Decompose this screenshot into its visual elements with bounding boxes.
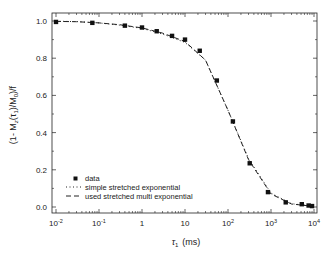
legend-item-simple-stretched: simple stretched exponential [66, 183, 180, 192]
x-tick-label: 104 [308, 218, 320, 228]
data-point [123, 23, 127, 27]
x-tick-label: 10-2 [49, 218, 63, 228]
data-point [90, 21, 94, 25]
y-tick-label: 0.2 [36, 166, 48, 175]
x-tick-label: 102 [222, 218, 234, 228]
legend: data simple stretched exponential used s… [66, 174, 193, 201]
legend-item-multi-exponential: used stretched multi exponential [66, 192, 193, 201]
data-point [155, 29, 159, 33]
y-tick-label: 0.8 [36, 54, 48, 63]
x-tick-label: 103 [265, 218, 277, 228]
y-axis-label: (1- Mz(τ1)/M0)/f [8, 85, 19, 144]
data-point [266, 190, 270, 194]
y-tick-label: 1.0 [36, 17, 48, 26]
data-point [183, 37, 187, 41]
y-tick-label: 0.4 [36, 129, 48, 138]
svg-text:simple stretched exponential: simple stretched exponential [85, 183, 180, 192]
chart: 10-210-1110102103104 0.00.20.40.60.81.0 … [0, 0, 330, 255]
x-axis-label: τ1(ms) [172, 237, 201, 248]
y-tick-label: 0.6 [36, 91, 48, 100]
data-point [198, 49, 202, 53]
data-point [231, 119, 235, 123]
data-point [54, 20, 58, 24]
x-tick-label: 10 [181, 219, 190, 228]
data-point [170, 34, 174, 38]
data-point [215, 78, 219, 82]
square-marker-icon [74, 177, 78, 181]
data-point [310, 204, 314, 208]
data-point [284, 200, 288, 204]
data-point [248, 161, 252, 165]
x-tick-label: 10-1 [92, 218, 106, 228]
y-tick-label: 0.0 [36, 203, 48, 212]
legend-item-data: data [74, 174, 101, 183]
data-point [300, 202, 304, 206]
data-point [140, 25, 144, 29]
svg-text:used stretched multi exponenti: used stretched multi exponential [85, 192, 193, 201]
svg-text:data: data [85, 174, 100, 183]
x-tick-label: 1 [140, 219, 145, 228]
